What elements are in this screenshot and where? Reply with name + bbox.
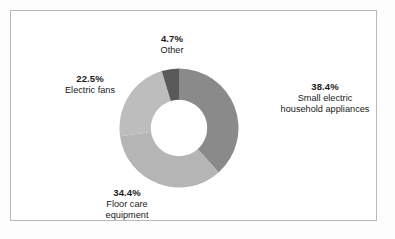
slice-percent-electric-fans: 22.5% bbox=[35, 73, 145, 85]
slice-label-other: 4.7% Other bbox=[123, 33, 221, 56]
slice-category-small-electric-line2: household appliances bbox=[255, 104, 395, 115]
slice-category-electric-fans: Electric fans bbox=[35, 85, 145, 96]
slice-category-floor-care: Floor care equipment bbox=[71, 199, 183, 221]
slice-label-small-electric-household-appliances: 38.4% Small electric household appliance… bbox=[255, 81, 395, 115]
slice-category-other: Other bbox=[123, 45, 221, 56]
slice-percent-other: 4.7% bbox=[123, 33, 221, 45]
slice-category-floor-care-line2: equipment bbox=[71, 210, 183, 221]
slice-category-other-line1: Other bbox=[123, 45, 221, 56]
slice-category-electric-fans-line1: Electric fans bbox=[35, 85, 145, 96]
donut-hole bbox=[151, 100, 207, 156]
slice-label-electric-fans: 22.5% Electric fans bbox=[35, 73, 145, 96]
slice-percent-small-electric: 38.4% bbox=[255, 81, 395, 93]
slice-category-small-electric: Small electric household appliances bbox=[255, 93, 395, 115]
slice-label-floor-care-equipment: 34.4% Floor care equipment bbox=[71, 187, 183, 221]
chart-frame: 38.4% Small electric household appliance… bbox=[10, 10, 377, 221]
slice-category-small-electric-line1: Small electric bbox=[255, 93, 395, 104]
chart-figure: 38.4% Small electric household appliance… bbox=[0, 0, 395, 239]
slice-category-floor-care-line1: Floor care bbox=[71, 199, 183, 210]
slice-percent-floor-care: 34.4% bbox=[71, 187, 183, 199]
